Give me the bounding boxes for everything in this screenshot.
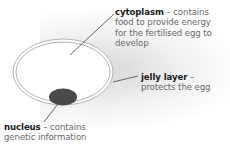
cytoplasm-desc-line-3: for the fertilised egg to — [115, 28, 212, 38]
cytoplasm-desc-line-2: food to provide energy — [115, 17, 211, 27]
cytoplasm-label: cytoplasm – contains food to provide ene… — [115, 7, 230, 49]
nucleus-term: nucleus — [4, 122, 41, 132]
nucleus-desc-line-1: contains — [50, 122, 86, 132]
cytoplasm-term: cytoplasm — [115, 7, 164, 17]
jelly-layer-leader-line — [113, 76, 138, 82]
jelly-layer-desc-line-1: protects the egg — [141, 82, 210, 92]
jelly-layer-label: jelly layer – protects the egg — [141, 72, 230, 93]
cytoplasm-desc-line-4: develop — [115, 38, 149, 48]
nucleus-label: nucleus – contains genetic information — [4, 122, 134, 143]
nucleus — [49, 89, 77, 106]
cytoplasm-desc-line-1: contains — [173, 7, 209, 17]
jelly-layer-term: jelly layer — [141, 72, 187, 82]
nucleus-desc-line-2: genetic information — [4, 132, 86, 142]
